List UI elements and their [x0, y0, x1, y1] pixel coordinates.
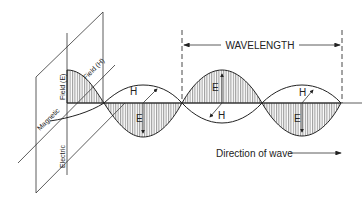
- wavelength-label: WAVELENGTH: [226, 40, 295, 51]
- electric-field-wave: [67, 70, 341, 137]
- label-e1: E: [136, 113, 143, 124]
- label-e2: E: [212, 82, 219, 93]
- direction-indicator: Direction of wave: [216, 148, 341, 159]
- label-h2: H: [218, 110, 225, 121]
- electric-label: Electric: [59, 145, 66, 168]
- label-e3: E: [294, 113, 301, 124]
- field-e-label: Field (E): [59, 74, 67, 100]
- label-h1: H: [130, 86, 137, 97]
- label-h3: H: [299, 87, 306, 98]
- direction-label: Direction of wave: [216, 148, 293, 159]
- em-wave-diagram: WAVELENGTH Direction of wave H E E H H E…: [0, 0, 363, 202]
